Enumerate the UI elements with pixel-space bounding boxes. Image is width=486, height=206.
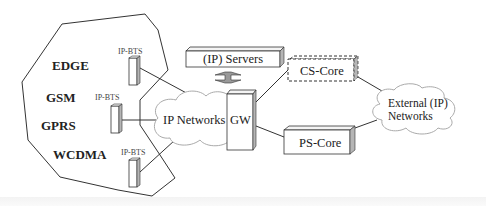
tech-label-gprs: GPRS [41, 118, 76, 133]
bidirectional-arrow-icon [215, 72, 241, 83]
external-networks-label-line1: External (IP) [388, 97, 448, 110]
tech-label-edge: EDGE [52, 58, 89, 73]
ip-bts-label: IP-BTS [121, 148, 145, 157]
ip-networks-label: IP Networks [163, 113, 226, 127]
ip-servers-label: (IP) Servers [203, 52, 263, 66]
tech-label-gsm: GSM [46, 90, 76, 105]
network-architecture-diagram: EDGE GSM GPRS WCDMA IP-BTS IP-BTS IP-BTS… [0, 0, 486, 206]
ip-bts-2: IP-BTS [95, 93, 122, 133]
gw-box: GW [227, 90, 256, 150]
link-cscore-external [358, 77, 382, 91]
external-networks-label-line2: Networks [388, 110, 433, 122]
gw-label: GW [230, 113, 251, 127]
radio-access-region [22, 14, 175, 196]
ip-bts-label: IP-BTS [118, 47, 142, 56]
ps-core-box: PS-Core [284, 126, 355, 154]
ip-bts-1: IP-BTS [118, 47, 142, 85]
cs-core-box: CS-Core [288, 56, 358, 81]
ip-bts-label: IP-BTS [95, 93, 119, 102]
tech-label-wcdma: WCDMA [53, 147, 107, 162]
link-gw-cscore [256, 68, 290, 102]
cs-core-label: CS-Core [300, 64, 344, 78]
ip-bts-3: IP-BTS [121, 148, 145, 187]
ip-servers-box: (IP) Servers [186, 47, 284, 67]
ps-core-label: PS-Core [299, 136, 342, 150]
link-pscore-external [355, 120, 377, 128]
external-networks-cloud: External (IP) Networks [373, 84, 455, 134]
link-gw-pscore [256, 126, 284, 137]
